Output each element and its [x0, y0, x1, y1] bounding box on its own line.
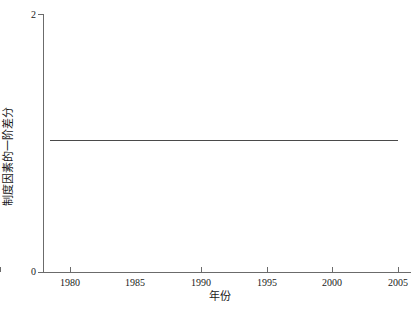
x-tick-label-1985: 1985 [112, 277, 158, 288]
y-axis-title: 制度因素的一阶差分 [0, 0, 16, 312]
x-tick-label-1990: 1990 [178, 277, 224, 288]
x-tick-mark-1980 [70, 267, 71, 272]
x-tick-label-2005: 2005 [375, 277, 417, 288]
x-axis-title: 年份 [0, 290, 417, 303]
x-tick-mark-1995 [267, 267, 268, 272]
x-tick-mark-1990 [201, 267, 202, 272]
chart-figure: 2 0 1980 1985 1990 1995 2000 2005 年份 制度因… [0, 0, 417, 312]
x-tick-mark-2000 [332, 267, 333, 272]
y-tick-mark-2 [38, 14, 43, 15]
y-axis-line [43, 14, 44, 273]
data-series-line [50, 140, 398, 141]
x-tick-label-1995: 1995 [244, 277, 290, 288]
x-tick-mark-2005 [398, 267, 399, 272]
x-tick-label-1980: 1980 [47, 277, 93, 288]
x-axis-line [43, 272, 411, 273]
x-tick-label-2000: 2000 [309, 277, 355, 288]
y-tick-mark-0 [38, 272, 43, 273]
